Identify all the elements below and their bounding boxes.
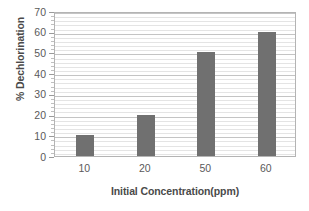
plot-area (54, 12, 296, 157)
y-axis-tick-label: 0 (22, 152, 46, 163)
bars-layer (55, 13, 295, 156)
y-axis-tick-label: 40 (22, 69, 46, 80)
y-axis-tick-label: 10 (22, 131, 46, 142)
x-axis-tick-label: 10 (54, 162, 115, 174)
bar-chart-figure: % Dechlorination 010203040506070 1020506… (0, 0, 309, 211)
x-axis-tick-label: 60 (236, 162, 297, 174)
bar (258, 32, 276, 156)
bar (197, 52, 215, 156)
bar (76, 135, 94, 156)
x-axis-tick-label: 20 (115, 162, 176, 174)
y-axis-tick-label: 60 (22, 27, 46, 38)
y-axis-tick-label: 20 (22, 110, 46, 121)
bar (137, 115, 155, 156)
y-axis-tick-label: 30 (22, 89, 46, 100)
y-axis-tick-label: 50 (22, 48, 46, 59)
y-axis-tick-labels: 010203040506070 (22, 6, 46, 162)
x-axis-tick-label: 50 (175, 162, 236, 174)
y-axis-tick-label: 70 (22, 7, 46, 18)
x-axis-title: Initial Concentration(ppm) (54, 185, 296, 197)
x-axis-tick-labels: 10205060 (54, 162, 296, 176)
y-tick-mark-major (49, 157, 54, 158)
